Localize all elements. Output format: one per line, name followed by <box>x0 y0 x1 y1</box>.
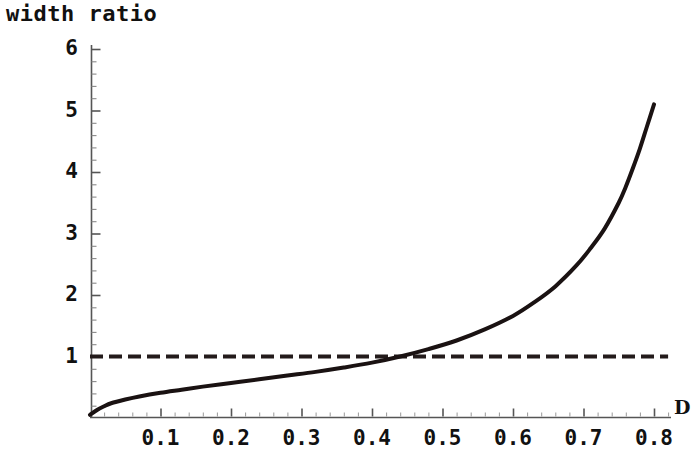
width-ratio-curve <box>90 104 654 415</box>
y-tick-label: 4 <box>52 159 78 183</box>
chart-figure: width ratio D 123456 0.10.20.30.40.50.60… <box>0 0 695 451</box>
x-axis-ticks <box>105 409 669 417</box>
chart-canvas <box>0 0 695 451</box>
y-tick-label: 5 <box>52 98 78 122</box>
x-tick-label: 0.7 <box>554 426 614 450</box>
y-tick-label: 1 <box>52 344 78 368</box>
x-tick-label: 0.6 <box>483 426 543 450</box>
x-tick-label: 0.4 <box>342 426 402 450</box>
y-tick-label: 2 <box>52 282 78 306</box>
x-tick-label: 0.1 <box>131 426 191 450</box>
x-tick-label: 0.8 <box>624 426 684 450</box>
y-tick-label: 6 <box>52 36 78 60</box>
y-tick-label: 3 <box>52 221 78 245</box>
x-tick-label: 0.2 <box>201 426 261 450</box>
x-tick-label: 0.5 <box>413 426 473 450</box>
x-tick-label: 0.3 <box>272 426 332 450</box>
y-axis-ticks <box>92 50 101 407</box>
